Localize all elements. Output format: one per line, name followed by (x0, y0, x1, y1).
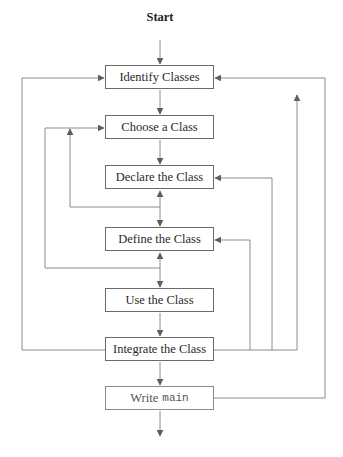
step-integrate-the-class: Integrate the Class (105, 337, 214, 361)
step-label: Define the Class (118, 232, 201, 247)
step-declare-the-class: Declare the Class (105, 165, 214, 189)
step-identify-classes: Identify Classes (105, 65, 214, 89)
step-label: Integrate the Class (113, 342, 206, 357)
loop-integrate-to-identify-left (22, 78, 105, 350)
step-write-main: Write main (105, 386, 214, 410)
step-label: Identify Classes (119, 70, 199, 85)
step-label-text: Write (130, 391, 158, 406)
step-choose-a-class: Choose a Class (105, 115, 214, 139)
step-define-the-class: Define the Class (105, 227, 214, 251)
loop-integrate-to-identify-right (272, 95, 297, 350)
start-label: Start (140, 10, 180, 25)
step-label-code: main (162, 392, 188, 404)
step-label: Use the Class (125, 293, 193, 308)
step-label: Choose a Class (121, 120, 197, 135)
step-use-the-class: Use the Class (105, 288, 214, 312)
step-label: Declare the Class (116, 170, 203, 185)
loop-integrate-to-define-right (214, 240, 250, 350)
loop-integrate-to-declare-right (215, 178, 272, 350)
